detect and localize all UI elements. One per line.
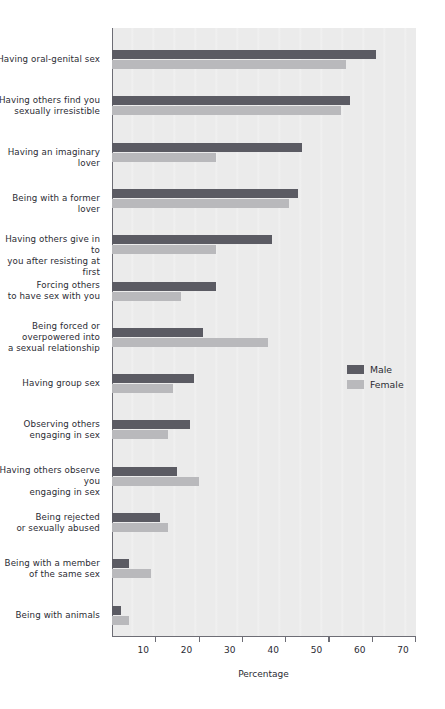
bar-female	[112, 523, 168, 532]
category-label: Being with a former lover	[0, 193, 106, 215]
bar-group	[112, 606, 415, 625]
x-tick	[285, 636, 286, 642]
bar-female	[112, 384, 173, 393]
legend-item-female: Female	[347, 377, 427, 392]
x-tick	[415, 636, 416, 642]
bar-female	[112, 430, 168, 439]
bar-group	[112, 559, 415, 578]
x-axis-title: Percentage	[112, 669, 415, 679]
x-tick-label: 60	[348, 645, 372, 655]
category-label: Having others observe youengaging in sex	[0, 465, 106, 498]
bar-female	[112, 199, 289, 208]
category-label: Being rejectedor sexually abused	[0, 512, 106, 534]
bar-male	[112, 513, 160, 522]
bar-group	[112, 513, 415, 532]
category-label: Having others give in toyou after resist…	[0, 234, 106, 278]
x-tick-label: 50	[304, 645, 328, 655]
legend-swatch-male-icon	[347, 365, 364, 374]
category-label: Having an imaginary lover	[0, 147, 106, 169]
x-tick-label: 40	[261, 645, 285, 655]
bar-male	[112, 467, 177, 476]
legend-label-male: Male	[370, 364, 392, 375]
bar-male	[112, 374, 194, 383]
x-tick	[242, 636, 243, 642]
x-tick	[199, 636, 200, 642]
legend-item-male: Male	[347, 362, 427, 377]
bar-groups	[112, 28, 415, 636]
category-label: Having others find yousexually irresisti…	[0, 95, 106, 117]
x-axis-line	[112, 636, 415, 637]
legend-label-female: Female	[370, 379, 404, 390]
category-label: Being with a memberof the same sex	[0, 558, 106, 580]
category-label: Having oral-genital sex	[0, 54, 106, 65]
x-tick	[328, 636, 329, 642]
category-label: Having group sex	[0, 378, 106, 389]
bar-male	[112, 189, 298, 198]
bar-female	[112, 616, 129, 625]
bar-male	[112, 282, 216, 291]
bar-male	[112, 235, 272, 244]
bar-female	[112, 569, 151, 578]
legend-swatch-female-icon	[347, 380, 364, 389]
bar-group	[112, 50, 415, 69]
category-label: Being forced oroverpowered intoa sexual …	[0, 321, 106, 354]
bar-male	[112, 328, 203, 337]
bar-male	[112, 96, 350, 105]
bar-male	[112, 50, 376, 59]
bar-group	[112, 143, 415, 162]
bar-male	[112, 606, 121, 615]
bar-female	[112, 292, 181, 301]
x-tick-label: 70	[391, 645, 415, 655]
bar-female	[112, 338, 268, 347]
bar-male	[112, 420, 190, 429]
bar-female	[112, 477, 199, 486]
bar-female	[112, 106, 341, 115]
x-tick-label: 30	[218, 645, 242, 655]
category-label: Being with animals	[0, 610, 106, 621]
x-tick	[372, 636, 373, 642]
category-labels: Having oral-genital sexHaving others fin…	[0, 28, 106, 636]
category-label: Forcing othersto have sex with you	[0, 280, 106, 302]
x-tick	[155, 636, 156, 642]
bar-group	[112, 96, 415, 115]
bar-female	[112, 245, 216, 254]
bar-group	[112, 467, 415, 486]
bar-group	[112, 282, 415, 301]
legend: Male Female	[347, 362, 427, 392]
bar-male	[112, 143, 302, 152]
x-tick-label: 10	[131, 645, 155, 655]
bar-male	[112, 559, 129, 568]
bar-female	[112, 60, 346, 69]
bar-chart: Having oral-genital sexHaving others fin…	[0, 0, 445, 709]
bar-group	[112, 189, 415, 208]
bar-group	[112, 420, 415, 439]
bar-female	[112, 153, 216, 162]
x-tick-label: 20	[175, 645, 199, 655]
bar-group	[112, 235, 415, 254]
category-label: Observing othersengaging in sex	[0, 419, 106, 441]
bar-group	[112, 328, 415, 347]
